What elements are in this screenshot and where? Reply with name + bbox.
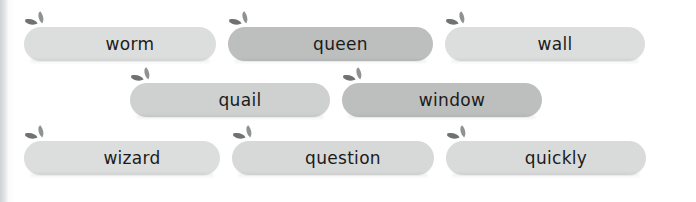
sprout-leaf-large bbox=[446, 19, 458, 25]
word-chip[interactable]: quail bbox=[130, 76, 330, 124]
word-label: quickly bbox=[525, 148, 587, 168]
sprout-leaf-large bbox=[229, 19, 241, 25]
word-row: wormqueenwall bbox=[0, 20, 696, 68]
sprout-leaf-small bbox=[38, 125, 43, 137]
word-label: queen bbox=[313, 34, 368, 54]
sprout-leaf-large bbox=[233, 133, 245, 139]
word-label: window bbox=[419, 90, 485, 110]
word-pill-rows: wormqueenwall quailwindow wizardquestion… bbox=[0, 0, 696, 202]
word-row: quailwindow bbox=[0, 76, 696, 124]
word-label: wall bbox=[538, 34, 573, 54]
sprout-leaf-small bbox=[246, 125, 251, 137]
sprout-leaf-small bbox=[144, 67, 149, 79]
sprout-leaf-large bbox=[25, 133, 37, 139]
worksheet-canvas: wormqueenwall quailwindow wizardquestion… bbox=[0, 0, 696, 202]
sprout-leaf-large bbox=[25, 19, 37, 25]
word-pill[interactable]: worm bbox=[24, 27, 216, 61]
word-label: wizard bbox=[103, 148, 160, 168]
sprout-leaf-small bbox=[38, 11, 43, 23]
sprout-leaf-large bbox=[131, 75, 143, 81]
word-pill[interactable]: wizard bbox=[24, 141, 220, 175]
sprout-leaf-large bbox=[447, 133, 459, 139]
word-label: worm bbox=[106, 34, 155, 54]
word-pill[interactable]: quickly bbox=[446, 141, 646, 175]
word-chip[interactable]: question bbox=[232, 134, 434, 182]
sprout-leaf-small bbox=[460, 125, 465, 137]
word-pill[interactable]: wall bbox=[445, 27, 645, 61]
word-label: quail bbox=[219, 90, 262, 110]
word-chip[interactable]: worm bbox=[24, 20, 216, 68]
word-chip[interactable]: wall bbox=[445, 20, 645, 68]
word-label: question bbox=[305, 148, 381, 168]
word-chip[interactable]: queen bbox=[228, 20, 433, 68]
word-pill[interactable]: quail bbox=[130, 83, 330, 117]
word-pill[interactable]: question bbox=[232, 141, 434, 175]
word-chip[interactable]: quickly bbox=[446, 134, 646, 182]
word-chip[interactable]: window bbox=[342, 76, 542, 124]
word-pill[interactable]: window bbox=[342, 83, 542, 117]
sprout-leaf-large bbox=[343, 75, 355, 81]
word-row: wizardquestionquickly bbox=[0, 134, 696, 182]
sprout-leaf-small bbox=[242, 11, 247, 23]
word-pill[interactable]: queen bbox=[228, 27, 433, 61]
sprout-leaf-small bbox=[356, 67, 361, 79]
word-chip[interactable]: wizard bbox=[24, 134, 220, 182]
sprout-leaf-small bbox=[459, 11, 464, 23]
